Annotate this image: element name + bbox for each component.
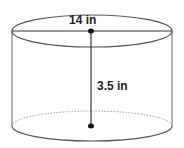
diameter-label: 14 in [69, 14, 96, 26]
top-center-dot [88, 29, 94, 34]
bottom-center-dot [88, 124, 94, 129]
height-label: 3.5 in [97, 80, 128, 92]
